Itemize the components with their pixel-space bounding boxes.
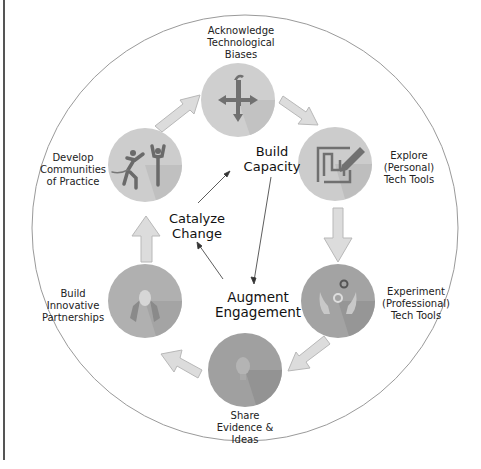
cycle-diagram (0, 0, 481, 469)
label-partnerships: Build Innovative Partnerships (36, 288, 110, 324)
label-line: of Practice (36, 176, 110, 188)
label-line: (Professional) (376, 298, 456, 310)
label-line: Tech Tools (374, 174, 444, 186)
label-line: Experiment (376, 286, 456, 298)
arrow-communities-to-acknowledge (155, 95, 200, 132)
label-line: Innovative (36, 300, 110, 312)
center-augment-engagement: Augment Engagement (210, 290, 306, 320)
center-catalyze-change: Catalyze Change (162, 211, 232, 241)
label-line: Partnerships (36, 312, 110, 324)
label-line: Develop (36, 152, 110, 164)
center-build-capacity: Build Capacity (236, 144, 308, 174)
label-line: Engagement (210, 305, 306, 320)
label-line: Augment (210, 290, 306, 305)
arrow-acknowledge-to-explore (279, 96, 318, 125)
label-share: Share Evidence & Ideas (205, 410, 285, 446)
stage-experiment-circle[interactable] (301, 264, 375, 338)
label-line: Capacity (236, 159, 308, 174)
label-line: Catalyze (162, 211, 232, 226)
label-line: Ideas (205, 434, 285, 446)
label-line: Explore (374, 150, 444, 162)
label-line: Technological (193, 37, 289, 49)
label-line: Acknowledge (193, 25, 289, 37)
stage-partnerships-circle[interactable] (108, 264, 182, 338)
label-acknowledge: Acknowledge Technological Biases (193, 25, 289, 61)
arrow-share-to-partnerships (161, 350, 202, 378)
arrow-experiment-to-share (288, 336, 330, 371)
stage-communities-circle[interactable] (108, 128, 182, 202)
stage-explore-circle[interactable] (298, 127, 372, 201)
label-line: Build (36, 288, 110, 300)
label-explore: Explore (Personal) Tech Tools (374, 150, 444, 186)
label-line: Communities (36, 164, 110, 176)
label-line: Build (236, 144, 308, 159)
label-communities: Develop Communities of Practice (36, 152, 110, 188)
label-line: Evidence & (205, 422, 285, 434)
arrow-partnerships-to-communities (132, 216, 160, 262)
label-line: Change (162, 226, 232, 241)
stage-share-circle[interactable] (208, 333, 282, 407)
label-line: Biases (193, 49, 289, 61)
label-line: (Personal) (374, 162, 444, 174)
arrow-explore-to-experiment (324, 208, 352, 262)
label-line: Share (205, 410, 285, 422)
stage-acknowledge-circle[interactable] (201, 63, 275, 137)
label-line: Tech Tools (376, 310, 456, 322)
label-experiment: Experiment (Professional) Tech Tools (376, 286, 456, 322)
